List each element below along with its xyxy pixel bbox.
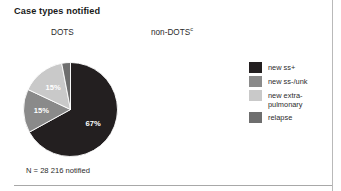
column-header-dots: DOTS: [51, 28, 74, 37]
bottom-divider-rule: [14, 185, 332, 186]
pie-slice-label: 15%: [34, 106, 49, 115]
pie-chart: 67%15%15%3%: [23, 62, 118, 157]
figure-panel: Case types notified DOTS non-DOTSc 67%15…: [0, 0, 341, 191]
column-header-non-dots-superscript: c: [190, 26, 193, 32]
legend-item: new ss+: [249, 62, 333, 73]
legend-swatch-icon: [249, 62, 262, 73]
pie-slice-label: 15%: [46, 83, 61, 92]
pie-slice-label: 67%: [86, 119, 101, 128]
legend-item: new ss-/unk: [249, 76, 333, 87]
legend-item-label: new extra- pulmonary: [268, 90, 303, 109]
legend-swatch-icon: [249, 90, 262, 101]
legend-item-label: new ss-/unk: [268, 76, 307, 86]
legend-swatch-icon: [249, 76, 262, 87]
legend-item-label: new ss+: [268, 62, 295, 72]
legend-item-label: relapse: [268, 112, 292, 122]
figure-title: Case types notified: [14, 6, 100, 16]
column-header-non-dots: non-DOTSc: [151, 28, 193, 37]
legend-swatch-icon: [249, 112, 262, 123]
legend-item: new extra- pulmonary: [249, 90, 333, 109]
column-header-non-dots-label: non-DOTS: [151, 28, 190, 37]
chart-legend: new ss+new ss-/unknew extra- pulmonaryre…: [249, 62, 333, 126]
pie-chart-caption: N = 28 216 notified: [26, 166, 90, 175]
legend-item: relapse: [249, 112, 333, 123]
pie-chart-svg: 67%15%15%3%: [23, 62, 118, 157]
